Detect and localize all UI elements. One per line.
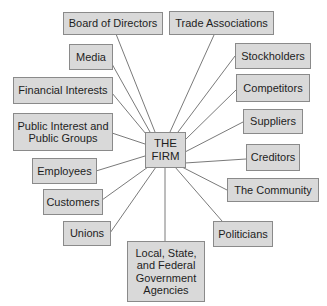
node-creditors: Creditors xyxy=(246,144,300,171)
node-suppliers: Suppliers xyxy=(243,109,303,134)
connector-competitors xyxy=(185,90,236,140)
connector-community xyxy=(182,167,227,190)
connector-suppliers xyxy=(185,122,243,152)
connector-unions xyxy=(110,167,156,233)
node-trade-associations: Trade Associations xyxy=(169,11,274,35)
node-stockholders: Stockholders xyxy=(235,43,311,69)
node-competitors: Competitors xyxy=(236,74,310,102)
node-public-interest-groups: Public Interest and Public Groups xyxy=(13,113,113,151)
connector-customers xyxy=(102,167,148,200)
node-board-of-directors: Board of Directors xyxy=(63,12,163,35)
connector-stockholders xyxy=(178,56,235,132)
node-government-agencies: Local, State, and Federal Government Age… xyxy=(127,241,205,302)
node-the-community: The Community xyxy=(227,178,319,202)
connector-public xyxy=(112,133,145,144)
node-customers: Customers xyxy=(43,189,103,215)
the-firm-node: THE FIRM xyxy=(145,132,186,168)
connector-media xyxy=(112,64,150,132)
connector-financial xyxy=(112,93,146,134)
node-unions: Unions xyxy=(63,221,111,246)
node-employees: Employees xyxy=(32,158,97,184)
connector-creditors xyxy=(185,159,246,163)
connector-board xyxy=(116,34,155,132)
node-media: Media xyxy=(69,44,113,70)
connector-employees xyxy=(96,156,145,171)
node-financial-interests: Financial Interests xyxy=(13,77,113,104)
node-politicians: Politicians xyxy=(213,221,273,247)
